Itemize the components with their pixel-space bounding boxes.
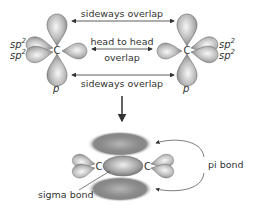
right-p-label: p [182, 83, 189, 94]
bottom-left-carbon-label: C [96, 161, 103, 172]
sigma-bond-orbital [103, 156, 143, 176]
bottom-sideways-overlap-label: sideways overlap [81, 78, 163, 89]
pi-bond-pointer [156, 140, 204, 157]
ethene-bond-result: C C pi bond sigma bond [38, 131, 244, 202]
head-to-head-overlap-annotation: head to head overlap [90, 36, 153, 63]
right-carbon-label: C [184, 45, 191, 56]
right-p-orbital-bottom-lobe [177, 54, 197, 86]
pi-bond-label: pi bond [208, 159, 244, 170]
sp2-orbital-bonding-diagram: C sp2 sp2 p C sp2 sp2 p sideways overlap… [0, 0, 254, 212]
head-to-head-overlap-label: overlap [104, 52, 140, 63]
sigma-bond-label: sigma bond [38, 189, 94, 200]
bottom-left-sp2-lobes [71, 153, 96, 180]
right-carbon-orbitals: C sp2 sp2 p [157, 14, 236, 94]
head-to-head-label: head to head [90, 36, 153, 47]
bottom-right-sp2-lobes [150, 153, 175, 180]
left-p-label: p [52, 83, 59, 94]
right-p-orbital-top-lobe [177, 14, 197, 46]
right-sp2-lobe-left [157, 43, 182, 59]
top-sideways-overlap-label: sideways overlap [81, 8, 163, 19]
bottom-right-carbon-label: C [144, 161, 151, 172]
pi-bond-lower-cloud [87, 176, 153, 202]
left-carbon-label: C [54, 45, 61, 56]
pi-bond-upper-cloud [87, 131, 153, 157]
left-p-orbital-top-lobe [47, 14, 67, 46]
right-sp2-label-2: sp2 [219, 48, 236, 61]
left-sp2-label-2: sp2 [10, 48, 27, 61]
left-sp2-lobe-right [62, 43, 87, 59]
bottom-sideways-overlap-annotation: sideways overlap [72, 75, 174, 89]
top-sideways-overlap-annotation: sideways overlap [72, 8, 174, 21]
left-p-orbital-bottom-lobe [47, 54, 67, 86]
left-carbon-orbitals: C sp2 sp2 p [10, 14, 87, 94]
